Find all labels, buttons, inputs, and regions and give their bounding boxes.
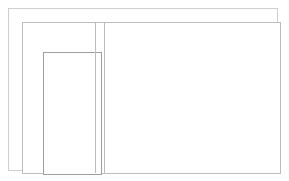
- column-divider-primary: [95, 23, 96, 173]
- document-page: [0, 0, 289, 181]
- main-content-area[interactable]: [105, 23, 280, 173]
- sidebar-content-box[interactable]: [43, 52, 102, 175]
- sidebar-panel: [23, 23, 93, 173]
- page-border: [8, 8, 278, 171]
